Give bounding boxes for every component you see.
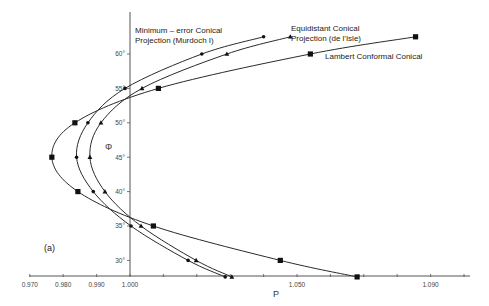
x-tick-label: 0.980 xyxy=(55,281,72,288)
panel-label: (a) xyxy=(44,243,55,253)
y-axis-title: Φ xyxy=(105,142,112,152)
square-marker-icon xyxy=(156,86,161,91)
circle-marker-icon xyxy=(91,190,95,194)
series-annotation: Equidistant Conical xyxy=(291,24,360,33)
projection-scale-factor-chart: 0.9700.9800.9901.0001.0501.09030°35°40°4… xyxy=(0,0,489,306)
series-annotation: Projection (de l'Isle) xyxy=(291,34,361,43)
circle-marker-icon xyxy=(86,121,90,125)
series-curves xyxy=(52,37,416,277)
x-tick-label: 0.970 xyxy=(22,281,39,288)
triangle-marker-icon xyxy=(139,223,144,227)
circle-marker-icon xyxy=(123,87,127,91)
x-tick-label: 0.990 xyxy=(88,281,105,288)
square-marker-icon xyxy=(49,155,54,160)
series-line-circle xyxy=(76,37,263,277)
square-marker-icon xyxy=(151,223,156,228)
square-marker-icon xyxy=(278,258,283,263)
x-axis-title: P xyxy=(273,289,279,299)
square-marker-icon xyxy=(75,189,80,194)
circle-marker-icon xyxy=(262,35,266,39)
x-tick-label: 1.090 xyxy=(422,281,439,288)
series-line-square xyxy=(52,37,416,277)
circle-marker-icon xyxy=(129,224,133,228)
circle-marker-icon xyxy=(75,155,79,159)
y-tick-label: 50° xyxy=(115,119,125,126)
y-tick-label: 40° xyxy=(115,188,125,195)
series-annotation: Projection (Murdoch I) xyxy=(135,36,214,45)
series-annotation: Minimum – error Conical xyxy=(135,26,222,35)
circle-marker-icon xyxy=(223,275,227,279)
square-marker-icon xyxy=(355,274,360,279)
x-tick-label: 1.050 xyxy=(289,281,306,288)
y-tick-label: 35° xyxy=(115,222,125,229)
triangle-marker-icon xyxy=(88,155,93,159)
circle-marker-icon xyxy=(200,52,204,56)
circle-marker-icon xyxy=(186,259,190,263)
x-tick-label: 1.000 xyxy=(122,281,139,288)
square-marker-icon xyxy=(72,120,77,125)
series-annotation: Lambert Conformal Conical xyxy=(325,52,423,61)
y-tick-label: 45° xyxy=(115,154,125,161)
y-tick-label: 60° xyxy=(115,50,125,57)
square-marker-icon xyxy=(308,51,313,56)
series-markers xyxy=(49,34,418,279)
square-marker-icon xyxy=(413,34,418,39)
y-tick-label: 30° xyxy=(115,257,125,264)
